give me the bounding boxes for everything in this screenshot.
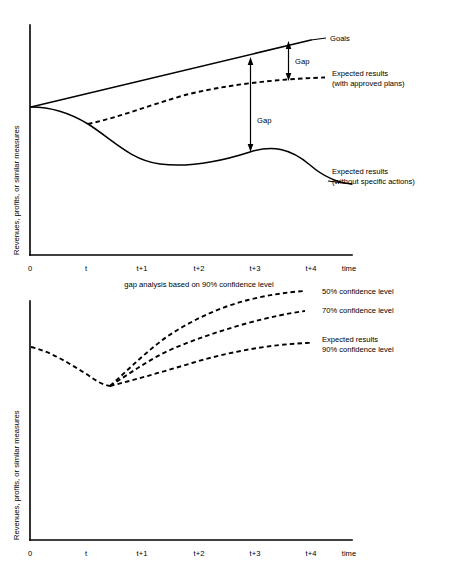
chart-bottom-y-axis-label: Revenues, profits, or similar measures (12, 410, 21, 540)
chart-top-tick-0: 0 (28, 264, 32, 273)
chart-bottom-x-axis-end-label: time (342, 549, 356, 558)
chart-bottom-series-90-label-line1: Expected results (322, 335, 378, 344)
chart-bottom-series-stem (31, 347, 110, 386)
chart-top-tick-t: t (85, 264, 88, 273)
chart-top-expected-noaction-label-line1: Expected results (332, 167, 388, 176)
chart-top-series-goals (31, 40, 311, 107)
chart-bottom-series-50 (110, 291, 305, 386)
chart-bottom-series-70-label: 70% confidence level (322, 306, 394, 315)
chart-bottom-series-70 (110, 311, 305, 386)
chart-bottom-tick-0: 0 (28, 549, 32, 558)
figure-caption: gap analysis based on 90% confidence lev… (124, 280, 274, 289)
chart-top-gap-upper-annotation: Gap (286, 41, 310, 81)
chart-bottom-tick-t4: t+4 (306, 549, 317, 558)
chart-bottom-tick-t3: t+3 (250, 549, 261, 558)
chart-bottom-series-90-label-line2: 90% confidence level (322, 345, 394, 354)
chart-top-gap-upper-label: Gap (295, 57, 309, 66)
chart-bottom-tick-t: t (85, 549, 88, 558)
chart-bottom-series-90 (110, 343, 312, 386)
chart-top-tick-t3: t+3 (250, 264, 261, 273)
chart-top-tick-t4: t+4 (306, 264, 317, 273)
chart-bottom-series-50-label: 50% confidence level (322, 287, 394, 296)
gap-analysis-figure: Revenues, profits, or similar measures G… (0, 0, 453, 572)
chart-top-tick-t1: t+1 (137, 264, 148, 273)
chart-top-goals-label: Goals (330, 34, 350, 43)
chart-top-gap-lower-arrowhead-top (248, 57, 254, 65)
chart-top-x-axis-end-label: time (342, 264, 356, 273)
chart-top: Revenues, profits, or similar measures G… (12, 25, 415, 273)
chart-top-expected-noaction-label-line2: (without specific actions) (332, 177, 415, 186)
chart-top-expected-approved-label-line2: (with approved plans) (332, 79, 405, 88)
chart-top-gap-lower-annotation: Gap (248, 57, 272, 152)
chart-bottom: Revenues, profits, or similar measures 5… (12, 287, 394, 558)
chart-bottom-tick-t1: t+1 (137, 549, 148, 558)
chart-bottom-tick-t2: t+2 (194, 549, 205, 558)
chart-top-gap-lower-label: Gap (257, 116, 271, 125)
chart-top-y-axis-label: Revenues, profits, or similar measures (12, 125, 21, 255)
chart-top-goals-leader (311, 38, 326, 40)
chart-top-series-expected-noaction (31, 107, 352, 184)
chart-top-expected-approved-label-line1: Expected results (332, 69, 388, 78)
chart-top-tick-t2: t+2 (194, 264, 205, 273)
figure-canvas: Revenues, profits, or similar measures G… (0, 0, 453, 572)
